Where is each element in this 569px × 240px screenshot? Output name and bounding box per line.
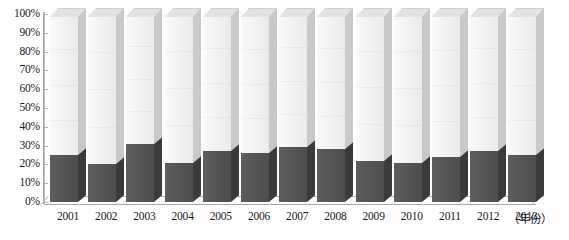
y-axis-tick-label: 100% (2, 8, 40, 19)
bar-segment-lower[interactable] (50, 155, 78, 202)
bar-segment-upper[interactable] (50, 14, 78, 155)
bar-gridline (241, 84, 269, 85)
bar-top-cap (50, 8, 78, 16)
bar-gridline (317, 82, 345, 83)
bar-group[interactable] (50, 14, 78, 202)
bar-gridline (50, 85, 78, 86)
bar-side-face-upper (345, 7, 353, 149)
stacked-bar[interactable] (165, 14, 193, 202)
stacked-bar[interactable] (470, 14, 498, 202)
bar-segment-upper[interactable] (356, 14, 384, 161)
bar-group[interactable] (279, 14, 307, 202)
bar-side-face-lower (536, 148, 544, 202)
bar-segment-lower[interactable] (508, 155, 536, 202)
bar-gridline (165, 125, 193, 126)
bar-gridline (126, 111, 154, 112)
bar-segment-upper[interactable] (394, 14, 422, 163)
bar-side-face-lower (422, 156, 430, 202)
bar-segment-upper[interactable] (279, 14, 307, 147)
bar-group[interactable] (317, 14, 345, 202)
bar-side-face-lower (193, 156, 201, 202)
bar-segment-upper[interactable] (126, 14, 154, 144)
y-axis-tick (43, 33, 48, 34)
bar-top-cap (432, 8, 460, 16)
stacked-bar[interactable] (317, 14, 345, 202)
stacked-bar[interactable] (508, 14, 536, 202)
y-axis-tick (43, 127, 48, 128)
stacked-bar[interactable] (356, 14, 384, 202)
bar-segment-lower[interactable] (279, 147, 307, 202)
y-axis-tick-label: 10% (2, 177, 40, 188)
bar-side-face-lower (231, 145, 239, 202)
bar-gridline (394, 88, 422, 89)
stacked-bar[interactable] (88, 14, 116, 202)
bar-top-cap (279, 8, 307, 16)
bar-gridline (203, 117, 231, 118)
bar-group[interactable] (432, 14, 460, 202)
bar-segment-upper[interactable] (432, 14, 460, 157)
stacked-bar[interactable] (126, 14, 154, 202)
bar-side-face-upper (498, 7, 506, 151)
bar-segment-lower[interactable] (470, 151, 498, 202)
y-axis-tick-label: 60% (2, 83, 40, 94)
bar-gridline (508, 49, 536, 50)
stacked-bar[interactable] (50, 14, 78, 202)
bar-segment-upper[interactable] (508, 14, 536, 155)
bar-segment-lower[interactable] (88, 164, 116, 202)
x-axis-labels: 2001200220032004200520062007200820092010… (44, 210, 554, 230)
bar-segment-upper[interactable] (203, 14, 231, 151)
bar-side-face-lower (460, 150, 468, 202)
bar-gridline (394, 51, 422, 52)
bar-group[interactable] (508, 14, 536, 202)
bar-top-cap (203, 8, 231, 16)
bar-side-face-upper (460, 7, 468, 157)
bar-segment-lower[interactable] (241, 153, 269, 202)
stacked-bar[interactable] (394, 14, 422, 202)
bar-segment-lower[interactable] (394, 163, 422, 202)
bar-side-face-upper (193, 7, 201, 162)
bar-group[interactable] (165, 14, 193, 202)
stacked-bar[interactable] (203, 14, 231, 202)
y-axis-tick-label: 20% (2, 158, 40, 169)
bar-gridline (203, 48, 231, 49)
bar-segment-upper[interactable] (88, 14, 116, 164)
stacked-bar[interactable] (241, 14, 269, 202)
stacked-bar[interactable] (279, 14, 307, 202)
bar-segment-lower[interactable] (432, 157, 460, 202)
bar-side-face-upper (384, 7, 392, 160)
bar-segment-lower[interactable] (165, 163, 193, 202)
bar-group[interactable] (88, 14, 116, 202)
bar-group[interactable] (203, 14, 231, 202)
bar-group[interactable] (394, 14, 422, 202)
bar-gridline (432, 121, 460, 122)
bar-gridline (165, 51, 193, 52)
bar-gridline (203, 83, 231, 84)
bar-group[interactable] (241, 14, 269, 202)
y-axis-tick-label: 90% (2, 27, 40, 38)
bar-side-face-lower (307, 141, 315, 202)
bar-segment-lower[interactable] (126, 144, 154, 202)
bar-group[interactable] (126, 14, 154, 202)
bar-gridline (279, 47, 307, 48)
stacked-bar[interactable] (432, 14, 460, 202)
bar-gridline (432, 85, 460, 86)
y-axis-tick (43, 183, 48, 184)
bar-group[interactable] (356, 14, 384, 202)
bar-group[interactable] (470, 14, 498, 202)
y-axis-tick (43, 108, 48, 109)
bar-gridline (317, 116, 345, 117)
bar-gridline (356, 124, 384, 125)
y-axis-tick (43, 202, 48, 203)
bar-segment-upper[interactable] (470, 14, 498, 151)
bar-gridline (470, 83, 498, 84)
bar-segment-lower[interactable] (203, 151, 231, 202)
bar-segment-upper[interactable] (317, 14, 345, 149)
bar-segment-upper[interactable] (241, 14, 269, 153)
bar-gridline (50, 49, 78, 50)
bar-segment-lower[interactable] (356, 161, 384, 202)
bar-side-face-upper (154, 7, 162, 143)
bar-top-cap (508, 8, 536, 16)
bar-segment-upper[interactable] (165, 14, 193, 163)
bar-segment-lower[interactable] (317, 149, 345, 202)
bar-top-cap (165, 8, 193, 16)
